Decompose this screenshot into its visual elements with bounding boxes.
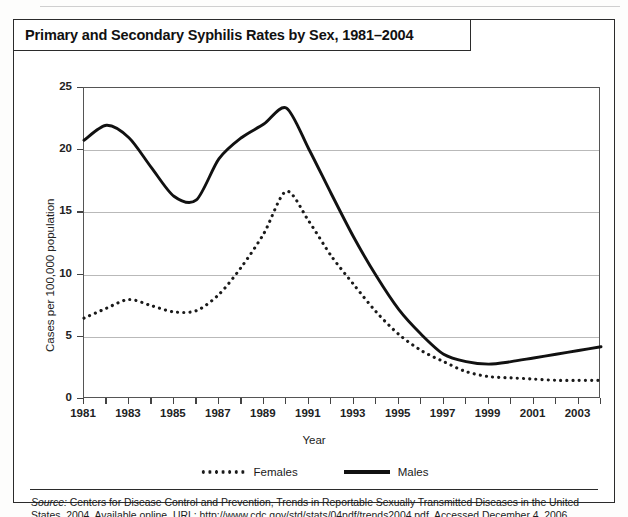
figure-title-box: Primary and Secondary Syphilis Rates by … bbox=[13, 19, 471, 51]
dotted-line-icon bbox=[200, 470, 246, 474]
legend-item-males: Males bbox=[344, 466, 429, 478]
x-tick-mark bbox=[353, 398, 354, 404]
source-text: Centers for Disease Control and Preventi… bbox=[31, 497, 579, 517]
series-layer bbox=[84, 88, 601, 399]
y-tick-mark bbox=[77, 336, 83, 337]
x-tick-label: 1999 bbox=[475, 407, 501, 419]
x-tick-mark bbox=[533, 398, 534, 404]
plot-area bbox=[83, 87, 600, 398]
x-tick-mark bbox=[285, 398, 286, 404]
legend-label-males: Males bbox=[398, 466, 429, 478]
source-label: Source: bbox=[31, 497, 67, 508]
x-tick-mark bbox=[600, 398, 601, 404]
chart-container: Cases per 100,000 population 0510152025 … bbox=[14, 52, 614, 504]
x-tick-label: 1983 bbox=[115, 407, 141, 419]
x-tick-label: 1995 bbox=[385, 407, 411, 419]
y-tick-mark bbox=[77, 149, 83, 150]
y-tick-label: 20 bbox=[32, 142, 72, 154]
y-tick-label: 10 bbox=[32, 267, 72, 279]
x-tick-mark bbox=[105, 398, 106, 404]
x-tick-mark bbox=[195, 398, 196, 404]
x-tick-mark bbox=[150, 398, 151, 404]
x-tick-mark bbox=[578, 398, 579, 404]
source-divider bbox=[30, 489, 598, 490]
x-tick-mark bbox=[128, 398, 129, 404]
y-tick-mark bbox=[77, 87, 83, 88]
x-tick-mark bbox=[443, 398, 444, 404]
x-tick-mark bbox=[510, 398, 511, 404]
legend-item-females: Females bbox=[200, 466, 298, 478]
x-tick-label: 1989 bbox=[250, 407, 276, 419]
x-tick-mark bbox=[398, 398, 399, 404]
figure-frame: Primary and Secondary Syphilis Rates by … bbox=[13, 19, 615, 503]
y-tick-label: 25 bbox=[32, 80, 72, 92]
x-tick-mark bbox=[240, 398, 241, 404]
x-tick-mark bbox=[83, 398, 84, 404]
x-tick-label: 1991 bbox=[295, 407, 321, 419]
x-tick-mark bbox=[308, 398, 309, 404]
x-tick-mark bbox=[218, 398, 219, 404]
y-tick-label: 0 bbox=[32, 391, 72, 403]
x-tick-label: 2003 bbox=[565, 407, 591, 419]
y-tick-mark bbox=[77, 211, 83, 212]
page-top-rule bbox=[40, 6, 620, 7]
figure-page: Primary and Secondary Syphilis Rates by … bbox=[0, 0, 628, 517]
chart-legend: Females Males bbox=[14, 466, 614, 478]
x-tick-mark bbox=[330, 398, 331, 404]
x-tick-label: 2001 bbox=[520, 407, 546, 419]
x-tick-mark bbox=[375, 398, 376, 404]
solid-line-icon bbox=[344, 470, 390, 473]
page-title: Primary and Secondary Syphilis Rates by … bbox=[14, 27, 413, 43]
y-tick-label: 15 bbox=[32, 204, 72, 216]
x-tick-label: 1997 bbox=[430, 407, 456, 419]
x-tick-mark bbox=[465, 398, 466, 404]
x-tick-mark bbox=[173, 398, 174, 404]
x-tick-mark bbox=[263, 398, 264, 404]
x-tick-label: 1981 bbox=[70, 407, 96, 419]
series-line-males bbox=[84, 107, 601, 364]
y-tick-label: 5 bbox=[32, 329, 72, 341]
x-tick-mark bbox=[488, 398, 489, 404]
x-tick-label: 1993 bbox=[340, 407, 366, 419]
x-axis-title: Year bbox=[14, 434, 614, 446]
source-note: Source: Centers for Disease Control and … bbox=[31, 496, 597, 517]
x-tick-mark bbox=[555, 398, 556, 404]
series-line-females bbox=[84, 191, 601, 380]
legend-label-females: Females bbox=[254, 466, 298, 478]
x-tick-label: 1987 bbox=[205, 407, 231, 419]
x-tick-label: 1985 bbox=[160, 407, 186, 419]
x-tick-mark bbox=[420, 398, 421, 404]
y-tick-mark bbox=[77, 274, 83, 275]
